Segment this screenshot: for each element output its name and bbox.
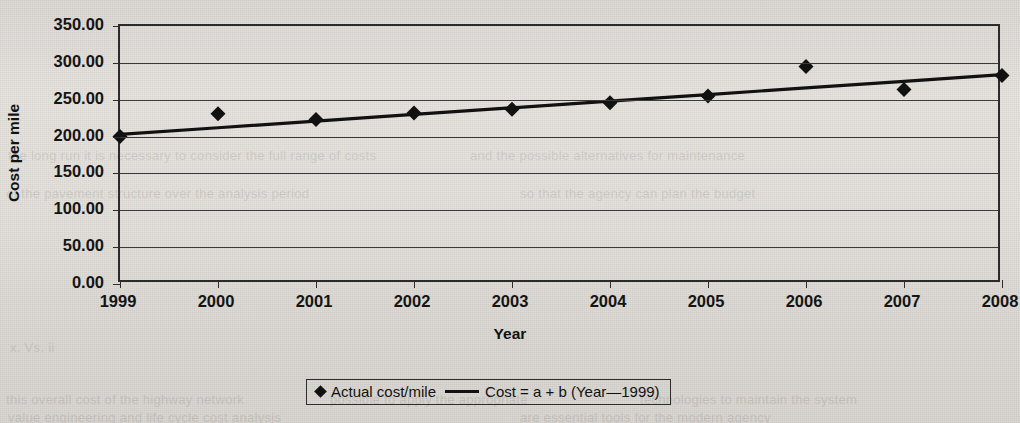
y-axis-tick-label: 200.00 <box>54 125 104 144</box>
y-axis-tick-label: 150.00 <box>54 162 104 181</box>
data-point-marker <box>603 95 618 110</box>
gridline <box>120 63 998 64</box>
x-axis-tick-label: 2008 <box>982 292 1019 311</box>
x-axis-title: Year <box>0 325 1020 343</box>
y-axis-tick-label: 300.00 <box>54 51 104 70</box>
gridline <box>120 247 998 248</box>
x-axis-tick-label: 2003 <box>492 292 529 311</box>
data-point-marker <box>505 102 520 117</box>
plot-area <box>118 24 1000 282</box>
data-point-marker <box>799 59 814 74</box>
legend-entry-fit: Cost = a + b (Year—1999) <box>445 383 660 400</box>
x-axis-tick-labels: 1999200020012002200320042005200620072008 <box>0 292 1020 314</box>
y-axis-tick <box>113 26 120 27</box>
x-axis-tick-label: 2004 <box>590 292 627 311</box>
x-axis-tick-label: 2005 <box>688 292 725 311</box>
x-axis-tick <box>512 280 513 288</box>
data-point-marker <box>995 68 1010 83</box>
cost-per-mile-chart: 0.0050.00100.00150.00200.00250.00300.003… <box>0 0 1020 423</box>
y-axis-tick <box>113 63 120 64</box>
y-axis-tick-label: 350.00 <box>54 15 104 34</box>
x-axis-tick-label: 2006 <box>786 292 823 311</box>
y-axis-tick-label: 100.00 <box>54 199 104 218</box>
data-point-marker <box>309 112 324 127</box>
data-point-marker <box>897 82 912 97</box>
x-axis-tick-label: 2000 <box>198 292 235 311</box>
x-axis-tick <box>904 280 905 288</box>
y-axis-tick <box>113 173 120 174</box>
x-axis-tick-label: 1999 <box>100 292 137 311</box>
gridline <box>120 100 998 101</box>
y-axis-tick-label: 250.00 <box>54 88 104 107</box>
data-point-marker <box>407 105 422 120</box>
x-axis-tick-label: 2007 <box>884 292 921 311</box>
x-axis-tick <box>1002 280 1003 288</box>
trend-line <box>120 75 1002 135</box>
data-point-marker <box>211 106 226 121</box>
gridline <box>120 137 998 138</box>
x-axis-tick <box>218 280 219 288</box>
y-axis-title: Cost per mile <box>5 104 23 202</box>
y-axis-tick <box>113 100 120 101</box>
y-axis-tick-label: 0.00 <box>72 273 104 292</box>
y-axis-tick <box>113 137 120 138</box>
y-axis-tick <box>113 247 120 248</box>
line-marker-icon <box>445 390 479 393</box>
x-axis-tick <box>610 280 611 288</box>
x-axis-tick-label: 2002 <box>394 292 431 311</box>
x-axis-tick-label: 2001 <box>296 292 333 311</box>
chart-legend: Actual cost/mile Cost = a + b (Year—1999… <box>306 379 671 405</box>
legend-label-actual: Actual cost/mile <box>331 383 436 400</box>
x-axis-tick <box>120 280 121 288</box>
data-series-layer <box>120 26 1002 284</box>
legend-label-fit: Cost = a + b (Year—1999) <box>485 383 660 400</box>
diamond-marker-icon <box>314 385 327 398</box>
x-axis-tick <box>316 280 317 288</box>
y-axis-tick-label: 50.00 <box>63 236 104 255</box>
legend-entry-actual: Actual cost/mile <box>316 383 436 400</box>
y-axis-tick <box>113 284 120 285</box>
x-axis-tick <box>414 280 415 288</box>
gridline <box>120 173 998 174</box>
gridline <box>120 210 998 211</box>
data-point-marker <box>701 89 716 104</box>
y-axis-tick <box>113 210 120 211</box>
x-axis-tick <box>806 280 807 288</box>
x-axis-tick <box>708 280 709 288</box>
